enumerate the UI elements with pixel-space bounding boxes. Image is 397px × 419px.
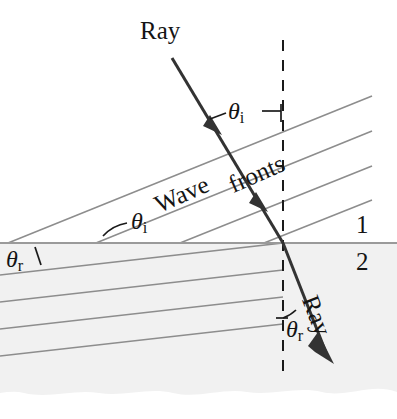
theta-symbol: θ (6, 246, 18, 272)
incident-ray (172, 58, 283, 243)
theta-subscript-i: i (240, 108, 245, 127)
angle-marker-theta-i-ray (210, 104, 281, 122)
refraction-diagram: Ray Wave fronts Ray θi θi θr θr 1 2 (0, 0, 397, 419)
medium-2-region (0, 243, 397, 395)
medium-2-label: 2 (356, 249, 369, 274)
angle-of-refraction-wavefront-label: θr (6, 247, 23, 274)
angle-of-refraction-ray-label: θr (286, 317, 303, 344)
theta-subscript-r: r (18, 256, 23, 275)
theta-subscript-i: i (143, 218, 148, 237)
incident-ray-label: Ray (140, 18, 180, 43)
theta-subscript-r: r (298, 326, 303, 345)
wave-fronts-above (8, 96, 372, 243)
medium-1-label: 1 (356, 212, 369, 237)
angle-marker-theta-i-wavefront (103, 223, 127, 236)
theta-symbol: θ (228, 98, 240, 124)
incident-ray-arrowhead-2 (249, 192, 268, 212)
angle-of-incidence-ray-label: θi (228, 99, 244, 126)
theta-symbol: θ (131, 208, 143, 234)
theta-symbol: θ (286, 316, 298, 342)
diagram-canvas (0, 0, 397, 419)
angle-of-incidence-wavefront-label: θi (131, 209, 147, 236)
